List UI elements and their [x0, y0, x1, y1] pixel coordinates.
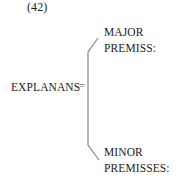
major-premiss-line1: MAJOR	[104, 26, 143, 39]
minor-premisses-line1: MINOR	[104, 146, 143, 159]
minor-premisses-line2: PREMISSES:	[104, 162, 170, 175]
major-premiss-line2: PREMISS:	[104, 42, 156, 55]
brace-lines	[0, 0, 177, 181]
